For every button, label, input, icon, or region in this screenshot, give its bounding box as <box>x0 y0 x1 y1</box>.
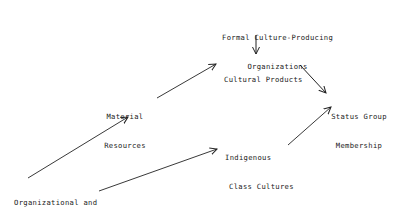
node-label-line: Indigenous <box>225 153 294 163</box>
node-label-line: Material <box>100 112 150 122</box>
diagram-canvas: Formal Culture-Producing Organizations C… <box>0 0 403 219</box>
node-status-group-membership: Status Group Membership <box>330 93 388 169</box>
node-label-line: Resources <box>100 141 150 151</box>
node-cultural-products: Cultural Products <box>224 56 303 104</box>
node-material-resources: Material Resources <box>100 93 150 169</box>
node-indigenous-class-cultures: Indigenous Class Cultures <box>225 134 294 210</box>
node-label-line: Formal Culture-Producing <box>222 33 333 43</box>
node-label-line: Membership <box>330 141 388 151</box>
node-label-line: Cultural Products <box>224 75 303 85</box>
node-label-line: Status Group <box>330 112 388 122</box>
edge-material-resources-to-cultural-products <box>157 64 216 98</box>
node-label-line: Class Cultures <box>225 182 294 192</box>
edge-indigenous-cultures-to-status-group <box>288 107 331 145</box>
node-label-line: Organizational and <box>14 198 97 208</box>
node-organizational-network-power-position: Organizational and Network Power Positio… <box>14 179 97 219</box>
